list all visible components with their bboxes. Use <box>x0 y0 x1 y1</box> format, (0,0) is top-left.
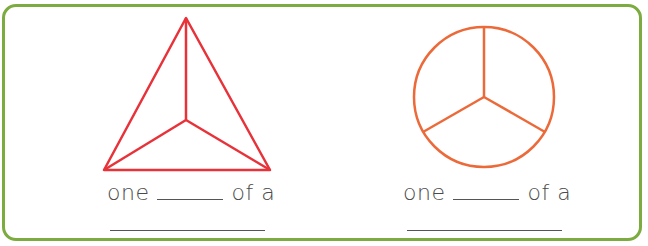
triangle-thirds-shape <box>0 0 648 246</box>
caption-prefix: one <box>107 180 149 205</box>
answer-blank-fraction[interactable] <box>157 198 223 200</box>
caption-circle: oneof a <box>403 180 571 205</box>
caption-prefix: one <box>403 180 445 205</box>
caption-suffix: of a <box>527 180 571 205</box>
circle-thirds-shape <box>414 27 554 167</box>
answer-blank-shape[interactable] <box>110 230 265 231</box>
answer-blank-shape[interactable] <box>407 230 562 231</box>
caption-triangle: oneof a <box>107 180 275 205</box>
answer-blank-fraction[interactable] <box>453 198 519 200</box>
caption-suffix: of a <box>231 180 275 205</box>
